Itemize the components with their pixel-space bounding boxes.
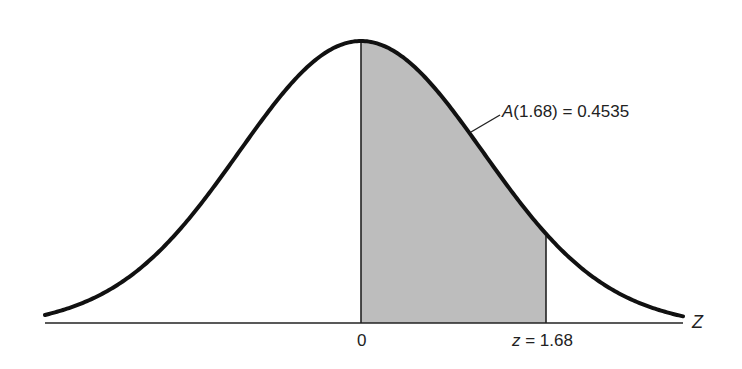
annotation-leader-line — [471, 115, 500, 132]
area-annotation: A(1.68) = 0.4535 — [502, 103, 629, 120]
tick-z-equation: = 1.68 — [521, 331, 573, 350]
tick-label-z-value: z = 1.68 — [512, 332, 573, 349]
area-value: = 0.4535 — [558, 102, 629, 121]
shaded-area — [361, 41, 546, 323]
axis-label-z: Z — [692, 313, 703, 331]
area-function-argument: (1.68) — [513, 102, 557, 121]
area-function-symbol: A — [502, 102, 513, 121]
tick-z-variable: z — [512, 331, 521, 350]
normal-curve-diagram — [0, 0, 742, 369]
tick-label-zero: 0 — [357, 332, 366, 349]
